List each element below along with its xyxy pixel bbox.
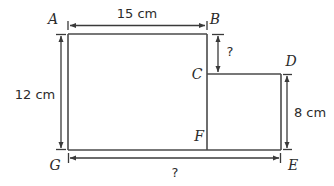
dimension-BC-label: ? xyxy=(227,44,234,59)
dimension-DE-label: 8 cm xyxy=(294,105,326,120)
vertex-label-C: C xyxy=(192,66,203,82)
dimension-DE: 8 cm xyxy=(283,75,326,150)
dimension-AB: 15 cm xyxy=(68,6,207,30)
dimension-GE-label: ? xyxy=(172,165,179,180)
dimension-BC: ? xyxy=(212,35,233,73)
dimension-GE: ? xyxy=(69,153,281,180)
dimension-AG-label: 12 cm xyxy=(15,87,56,102)
geometry-figure: 15 cm 12 cm ? 8 cm ? xyxy=(0,0,334,186)
dimension-AB-label: 15 cm xyxy=(117,6,158,21)
geometry-diagram: 15 cm 12 cm ? 8 cm ? xyxy=(0,0,334,186)
vertex-label-F: F xyxy=(193,128,205,144)
vertex-label-G: G xyxy=(49,157,60,173)
dimension-AG: 12 cm xyxy=(15,35,66,150)
vertex-label-A: A xyxy=(46,11,58,27)
vertex-labels: A B C D E F G xyxy=(46,11,298,173)
vertex-label-B: B xyxy=(209,11,220,27)
vertex-label-E: E xyxy=(287,157,298,173)
shape-outline xyxy=(68,34,281,150)
vertex-label-D: D xyxy=(284,53,296,69)
